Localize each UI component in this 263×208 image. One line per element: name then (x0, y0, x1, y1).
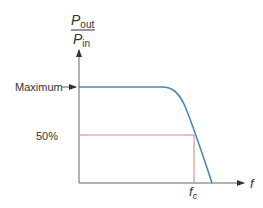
y-axis-label: Pout Pin (71, 12, 95, 49)
cutoff-label: fc (189, 184, 198, 201)
frequency-response-diagram: Pout Pin Maximum 50% fc f (0, 0, 263, 208)
half-label: 50% (36, 130, 58, 142)
maximum-label: Maximum (15, 81, 63, 93)
svg-text:Pin: Pin (73, 31, 90, 49)
x-axis-label: f (250, 176, 255, 191)
svg-text:Pout: Pout (71, 12, 94, 30)
